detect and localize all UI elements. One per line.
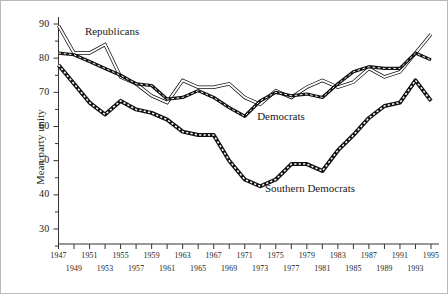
x-tick-label: 1985 xyxy=(336,264,370,273)
x-tick-label: 1979 xyxy=(290,251,324,260)
y-tick-label: 40 xyxy=(28,188,50,199)
x-tick-label: 1983 xyxy=(321,251,355,260)
axis-lines xyxy=(59,17,440,244)
x-tick-label: 1969 xyxy=(212,264,246,273)
x-tick-label: 1995 xyxy=(414,251,448,260)
x-tick-label: 1989 xyxy=(367,264,401,273)
x-tick-label: 1957 xyxy=(119,264,153,273)
x-tick-label: 1947 xyxy=(42,251,76,260)
x-tick-label: 1981 xyxy=(305,264,339,273)
y-ticks xyxy=(54,24,59,246)
y-tick-label: 90 xyxy=(28,18,50,29)
series-republicans xyxy=(59,26,432,105)
series-label-republicans: Republicans xyxy=(85,25,139,37)
x-tick-label: 1991 xyxy=(383,251,417,260)
x-tick-label: 1951 xyxy=(73,251,107,260)
x-tick-label: 1953 xyxy=(88,264,122,273)
x-tick-label: 1961 xyxy=(150,264,184,273)
x-tick-label: 1959 xyxy=(135,251,169,260)
y-tick-label: 30 xyxy=(28,223,50,234)
x-tick-label: 1973 xyxy=(243,264,277,273)
y-tick-label: 80 xyxy=(28,52,50,63)
chart-figure: Mean party unity 30405060708090 19471951… xyxy=(0,0,448,294)
y-tick-label: 50 xyxy=(28,154,50,165)
x-tick-label: 1965 xyxy=(181,264,215,273)
x-tick-label: 1987 xyxy=(352,251,386,260)
x-tick-label: 1967 xyxy=(197,251,231,260)
x-tick-label: 1993 xyxy=(398,264,432,273)
x-ticks xyxy=(59,244,432,249)
y-tick-label: 70 xyxy=(28,86,50,97)
x-tick-label: 1977 xyxy=(274,264,308,273)
x-tick-label: 1949 xyxy=(57,264,91,273)
x-tick-label: 1971 xyxy=(228,251,262,260)
series-label-southern-democrats: Southern Democrats xyxy=(265,182,355,194)
x-tick-label: 1975 xyxy=(259,251,293,260)
y-tick-label: 60 xyxy=(28,120,50,131)
x-tick-label: 1955 xyxy=(104,251,138,260)
x-tick-label: 1963 xyxy=(166,251,200,260)
series-label-democrats: Democrats xyxy=(257,110,305,122)
series-southern-democrats xyxy=(59,65,432,186)
